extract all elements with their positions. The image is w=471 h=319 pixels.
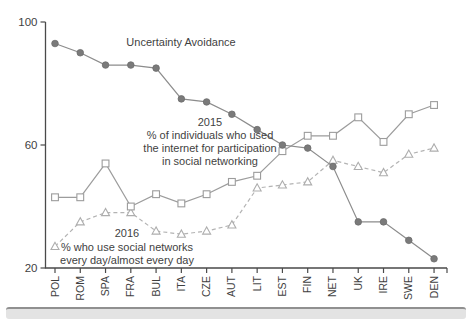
x-category-label: SPA	[99, 276, 111, 296]
data-point-square	[178, 200, 185, 207]
x-category-label: DEN	[428, 276, 440, 298]
data-point-triangle	[430, 144, 438, 151]
line-chart: 2060100POLROMSPAFRABULITACZEAUTLITESTFIN…	[0, 0, 471, 306]
x-category-label: FIN	[301, 276, 313, 293]
data-point-square	[431, 102, 438, 109]
y-tick-label: 100	[18, 16, 37, 28]
data-point-triangle	[329, 156, 337, 163]
data-point-square	[102, 160, 109, 167]
data-point-square	[380, 139, 387, 146]
data-point-square	[304, 132, 311, 139]
data-point-square	[254, 172, 261, 179]
x-category-label: ROM	[74, 276, 86, 301]
data-point-square	[52, 194, 59, 201]
data-point-circle	[431, 255, 438, 262]
x-category-label: POL	[49, 276, 61, 297]
data-point-square	[203, 191, 210, 198]
bottom-divider	[6, 307, 466, 319]
x-category-label: SWE	[402, 276, 414, 300]
data-point-circle	[380, 219, 387, 226]
x-category-label: IRE	[377, 276, 389, 294]
data-point-circle	[279, 142, 286, 149]
x-category-label: FRA	[124, 276, 136, 297]
annotation-0: Uncertainty Avoidance	[126, 36, 235, 48]
data-point-circle	[52, 40, 59, 47]
data-point-triangle	[253, 184, 261, 191]
data-point-triangle	[51, 242, 59, 249]
x-category-label: EST	[276, 275, 288, 296]
x-category-label: LIT	[251, 275, 263, 291]
data-point-square	[330, 132, 337, 139]
y-tick-label: 20	[25, 262, 38, 274]
data-point-circle	[304, 145, 311, 152]
y-tick-label: 60	[25, 139, 38, 151]
data-point-square	[405, 111, 412, 118]
data-point-circle	[203, 99, 210, 106]
data-point-circle	[153, 65, 160, 72]
data-point-circle	[128, 62, 135, 69]
data-point-triangle	[405, 150, 413, 157]
x-category-label: ITA	[175, 276, 187, 292]
data-point-circle	[178, 96, 185, 103]
annotation-2: 2016% who use social networksevery day/a…	[60, 227, 194, 266]
data-point-circle	[330, 163, 337, 170]
data-point-square	[153, 191, 160, 198]
data-point-square	[77, 194, 84, 201]
x-category-label: AUT	[225, 275, 237, 297]
annotation-1: 2015% of individuals who usedthe interne…	[143, 116, 276, 167]
data-point-circle	[102, 62, 109, 69]
chart-canvas: 2060100POLROMSPAFRABULITACZEAUTLITESTFIN…	[0, 0, 471, 306]
x-category-label: NET	[326, 275, 338, 297]
x-category-label: UK	[352, 276, 364, 291]
x-category-label: BUL	[150, 276, 162, 297]
data-point-circle	[229, 111, 236, 118]
data-point-triangle	[203, 227, 211, 234]
data-point-circle	[77, 49, 84, 56]
data-point-triangle	[152, 227, 160, 234]
x-category-label: CZE	[200, 276, 212, 297]
data-point-circle	[355, 219, 362, 226]
data-point-square	[279, 148, 286, 155]
data-point-triangle	[354, 162, 362, 169]
data-point-circle	[405, 237, 412, 244]
data-point-square	[228, 179, 235, 186]
data-point-square	[355, 114, 362, 121]
data-point-square	[127, 203, 134, 210]
